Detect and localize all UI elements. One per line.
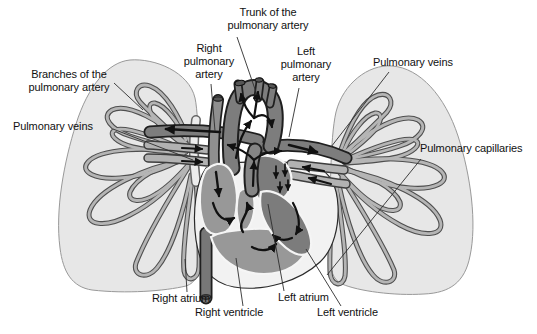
label-right-atrium: Right atrium (152, 292, 210, 305)
label-trunk-of-pulmonary-artery: Trunk of the pulmonary artery (220, 6, 316, 32)
lung-right (330, 66, 473, 295)
label-right-pulmonary-artery: Right pulmonary artery (176, 42, 242, 81)
label-left-ventricle: Left ventricle (317, 306, 378, 319)
label-pulmonary-veins-right: Pulmonary veins (373, 56, 453, 69)
label-left-atrium: Left atrium (278, 291, 329, 304)
right-atrium-shape (200, 164, 237, 235)
label-left-pulmonary-artery: Left pulmonary artery (273, 45, 339, 84)
label-pulmonary-capillaries: Pulmonary capillaries (420, 142, 522, 155)
inferior-vena-cava (201, 233, 211, 299)
diagram-canvas (0, 0, 537, 334)
arch-branch-opening (255, 78, 263, 82)
figure-pulmonary-circulation: Trunk of the pulmonary artery Right pulm… (0, 0, 537, 334)
leader-left-pa (289, 88, 299, 137)
label-pulmonary-veins-left: Pulmonary veins (13, 120, 93, 133)
label-branches-of-pulmonary-artery: Branches of the pulmonary artery (16, 68, 122, 94)
label-right-ventricle: Right ventricle (195, 306, 263, 319)
